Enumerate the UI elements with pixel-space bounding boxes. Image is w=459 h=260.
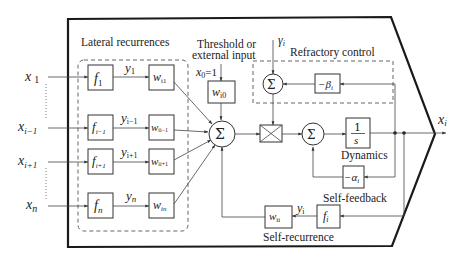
activation-block-fi+1: fi+1 xyxy=(88,149,113,174)
svg-text:Σ: Σ xyxy=(215,126,225,142)
signal-yi+1: yi+1 xyxy=(119,144,138,160)
beta-block: −βi xyxy=(315,74,340,93)
activation-block-fn: fn xyxy=(88,193,113,218)
svg-text:1: 1 xyxy=(354,121,361,134)
signal-yi-1: yi−1 xyxy=(119,110,138,126)
threshold-label-line2: external input xyxy=(192,49,256,62)
svg-text:s: s xyxy=(354,134,358,146)
input-x1: x1 xyxy=(24,69,39,85)
weight-block-wii-1: wii−1 xyxy=(149,115,174,140)
activation-block-fi-1: fi−1 xyxy=(88,115,113,140)
svg-text:x1: x1 xyxy=(24,69,39,85)
dynamics-summation-node: Σ xyxy=(302,123,324,145)
weight-block-wi0: wi0 xyxy=(208,81,235,103)
signal-yn: yn xyxy=(124,188,137,204)
signal-yi: yi xyxy=(296,201,305,216)
dynamics-label: Dynamics xyxy=(341,149,388,162)
input-xi-1: xi−1 xyxy=(17,119,37,136)
weight-block-win: win xyxy=(149,193,174,218)
gamma-input: γi xyxy=(278,33,285,48)
svg-text:xn: xn xyxy=(25,197,37,214)
svg-text:xi−1: xi−1 xyxy=(17,119,37,136)
svg-text:Σ: Σ xyxy=(307,128,315,142)
svg-text:xi+1: xi+1 xyxy=(17,153,37,170)
main-summation-node: Σ xyxy=(209,121,235,147)
signal-y1: y1 xyxy=(123,60,135,76)
svg-text:Σ: Σ xyxy=(267,78,275,92)
self-recurrence-label: Self-recurrence xyxy=(263,231,334,243)
integrator-block: 1 s xyxy=(346,118,370,148)
output-xi: xi xyxy=(437,112,447,128)
self-activation-block-fi: fi xyxy=(317,205,340,228)
lateral-recurrences-label: Lateral recurrences xyxy=(81,36,170,48)
bias-input-x0: x0=1 xyxy=(195,65,217,80)
alpha-block: −αi xyxy=(343,166,364,188)
neuron-block-diagram: Lateral recurrences x1 xi−1 xi+1 xn f1 f… xyxy=(0,0,459,260)
refractory-summation-node: Σ xyxy=(263,74,283,94)
svg-text:−βi: −βi xyxy=(318,78,333,92)
input-xi+1: xi+1 xyxy=(17,153,37,170)
svg-text:−αi: −αi xyxy=(344,171,359,185)
weight-block-wi1: wi1 xyxy=(149,65,174,90)
multiplier-block xyxy=(260,125,282,142)
weight-block-wii+1: wii+1 xyxy=(149,149,174,174)
input-xn: xn xyxy=(25,197,37,214)
refractory-control-label: Refractory control xyxy=(290,46,375,59)
self-feedback-label: Self-feedback xyxy=(323,192,387,204)
self-weight-block-wii: wii xyxy=(265,206,292,228)
activation-block-f1: f1 xyxy=(88,65,113,90)
